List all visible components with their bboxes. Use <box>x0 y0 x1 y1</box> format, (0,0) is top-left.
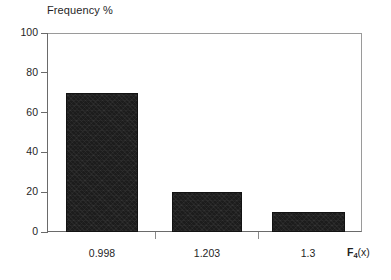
y-tick-label-5: 0 <box>32 226 38 237</box>
x-tick-1 <box>258 232 259 239</box>
x-tick-label-2: 1.3 <box>301 247 316 259</box>
y-tick-1 <box>41 72 48 73</box>
y-tick-label-2: 60 <box>26 107 38 118</box>
x-axis-title-arg: (x) <box>358 246 370 258</box>
y-tick-3 <box>41 152 48 153</box>
y-tick-2 <box>41 112 48 113</box>
y-tick-0 <box>41 33 48 34</box>
y-tick-5 <box>41 232 48 233</box>
chart-title: Frequency % <box>47 4 113 17</box>
y-tick-4 <box>41 192 48 193</box>
x-tick-0 <box>155 232 156 239</box>
bar-0 <box>66 93 138 232</box>
x-tick-label-1: 1.203 <box>194 247 220 259</box>
plot-area <box>48 33 362 232</box>
x-tick-label-0: 0.998 <box>89 247 115 259</box>
y-tick-label-4: 20 <box>26 186 38 197</box>
bar-1 <box>172 192 242 232</box>
bar-2 <box>272 212 345 232</box>
y-tick-label-0: 100 <box>20 27 38 38</box>
y-tick-label-3: 40 <box>26 146 38 157</box>
bar-chart-figure: Frequency % 100806040200 0.9981.2031.3 F… <box>0 0 391 280</box>
x-axis-title: F4(x) <box>347 246 370 262</box>
y-tick-label-1: 80 <box>26 67 38 78</box>
